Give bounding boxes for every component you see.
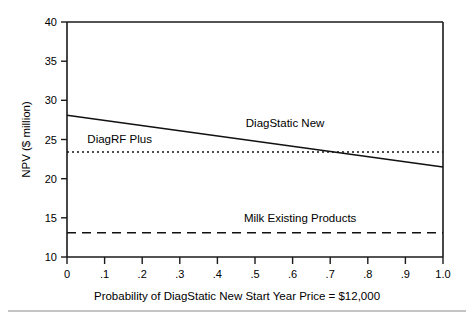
series-label-diagrf-plus: DiagRF Plus	[87, 133, 152, 145]
x-tick-label: .1	[100, 268, 109, 280]
x-tick-label: .5	[250, 268, 259, 280]
y-tick-label: 15	[45, 212, 57, 224]
series-label-milk-existing-products: Milk Existing Products	[244, 212, 357, 224]
y-tick-label: 40	[45, 16, 57, 28]
sensitivity-line-chart: 10 15 20 25 30 35 40 0 .1 .2 .3	[0, 0, 474, 322]
x-tick-label: .6	[288, 268, 297, 280]
y-tick-label: 30	[45, 94, 57, 106]
y-tick-label: 20	[45, 173, 57, 185]
y-axis-title: NPV ($ million)	[20, 101, 32, 178]
y-tick-label: 35	[45, 55, 57, 67]
series-label-diagstatic-new: DiagStatic New	[246, 117, 325, 129]
x-tick-label: .2	[138, 268, 147, 280]
x-tick-label: .3	[175, 268, 184, 280]
x-tick-label: .8	[363, 268, 372, 280]
x-tick-label: 1.0	[435, 268, 450, 280]
y-tick-label: 10	[45, 251, 57, 263]
chart-figure: 10 15 20 25 30 35 40 0 .1 .2 .3	[0, 0, 474, 322]
x-tick-label: .4	[213, 268, 222, 280]
x-tick-label: .9	[401, 268, 410, 280]
y-tick-label: 25	[45, 134, 57, 146]
x-tick-label: 0	[64, 268, 70, 280]
x-axis-title: Probability of DiagStatic New Start Year…	[94, 290, 380, 302]
x-tick-label: .7	[326, 268, 335, 280]
